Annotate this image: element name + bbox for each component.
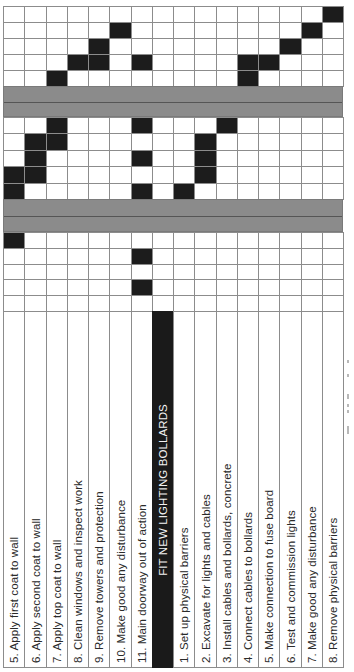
gantt-empty-cell [216,54,238,71]
gantt-empty-cell [258,70,280,87]
gantt-empty-cell [279,232,302,249]
gantt-empty-cell [216,38,238,55]
gantt-empty-cell [258,279,280,296]
gantt-empty-cell [322,232,344,249]
gantt-empty-cell [279,279,302,296]
gantt-empty-cell [46,54,68,71]
band-midline [4,216,342,217]
gantt-empty-cell [173,232,195,249]
gantt-empty-cell [3,22,25,39]
gantt-bar-cell [46,133,68,151]
gantt-empty-cell [194,264,217,280]
gantt-empty-cell [301,54,323,71]
gantt-bar-cell [322,6,344,23]
gantt-empty-cell [67,38,89,55]
gantt-empty-cell [109,279,132,296]
gantt-empty-cell [237,279,259,296]
gantt-bar-cell [109,22,132,39]
gantt-empty-cell [279,6,302,23]
band-midline [4,102,342,103]
gantt-empty-cell [216,22,238,39]
gantt-empty-cell [258,133,280,151]
gantt-empty-cell [88,166,110,184]
gantt-bar-cell [24,150,47,167]
gantt-empty-cell [301,70,323,87]
gantt-empty-cell [216,133,238,151]
gantt-empty-cell [109,6,132,23]
gantt-empty-cell [258,150,280,167]
gantt-empty-cell [152,183,174,200]
gantt-empty-cell [46,166,68,184]
gantt-empty-cell [322,133,344,151]
gantt-empty-cell [88,70,110,87]
gantt-bar-cell [279,38,302,55]
gantt-bar-cell [67,54,89,71]
gantt-empty-cell [67,150,89,167]
gantt-empty-cell [322,150,344,167]
gantt-bar-cell [24,133,47,151]
gantt-empty-cell [88,133,110,151]
gantt-empty-cell [3,150,25,167]
gantt-empty-cell [109,117,132,134]
gantt-empty-cell [24,38,47,55]
gantt-empty-cell [237,150,259,167]
gantt-empty-cell [3,133,25,151]
gantt-empty-cell [24,70,47,87]
gantt-empty-cell [3,38,25,55]
gantt-empty-cell [109,232,132,249]
gantt-empty-cell [173,166,195,184]
task-label: 4. Connect cables to bollards [242,512,254,663]
gantt-bar-cell [237,54,259,71]
gantt-empty-cell [24,279,47,296]
gantt-empty-cell [194,54,217,71]
gantt-empty-cell [258,183,280,200]
gantt-empty-cell [258,166,280,184]
task-label: 5. Make connection to fuse board [263,490,275,663]
gantt-empty-cell [109,54,132,71]
gantt-empty-cell [3,117,25,134]
task-label: 7. Apply top coat to wall [51,540,63,663]
gantt-empty-cell [279,248,302,265]
task-label-cell: 6. Apply second coat to wall [24,311,47,668]
gantt-empty-cell [173,54,195,71]
gantt-bar-cell [194,133,217,151]
gantt-bar-cell [3,166,25,184]
gantt-empty-cell [322,70,344,87]
task-label-cell: 7. Apply top coat to wall [46,311,68,668]
gantt-empty-cell [279,166,302,184]
task-label: 10. Make good any disturbance [115,500,127,663]
gantt-empty-cell [173,150,195,167]
gantt-empty-cell [237,166,259,184]
gantt-empty-cell [152,264,174,280]
gantt-empty-cell [131,70,153,87]
gantt-bar-cell [173,183,195,200]
task-label: 6. Apply second coat to wall [30,518,42,663]
gantt-empty-cell [216,70,238,87]
gantt-bar-cell [131,150,153,167]
gantt-empty-cell [131,38,153,55]
task-label-cell: 5. Make connection to fuse board [258,311,280,668]
gantt-empty-cell [131,264,153,280]
gantt-empty-cell [279,117,302,134]
task-label: 7. Make good any disturbance [306,506,318,663]
gantt-empty-cell [46,295,68,312]
gantt-empty-cell [301,38,323,55]
gantt-empty-cell [46,38,68,55]
gantt-empty-cell [152,6,174,23]
gantt-empty-cell [194,117,217,134]
gantt-empty-cell [322,295,344,312]
gantt-empty-cell [24,232,47,249]
gantt-empty-cell [152,117,174,134]
gantt-empty-cell [258,22,280,39]
gantt-bar-cell [301,22,323,39]
task-label: 3. Install cables and bollards, concrete [221,463,233,663]
task-label-cell: 7. Make good any disturbance [301,311,323,668]
task-label-cell: 11. Main doorway out of action [131,311,153,668]
gantt-empty-cell [216,6,238,23]
gantt-empty-cell [67,70,89,87]
section-header: FIT NEW LIGHTING BOLLARDS [152,311,174,668]
gantt-empty-cell [152,248,174,265]
gantt-empty-cell [3,248,25,265]
gantt-empty-cell [3,264,25,280]
gantt-empty-cell [194,22,217,39]
